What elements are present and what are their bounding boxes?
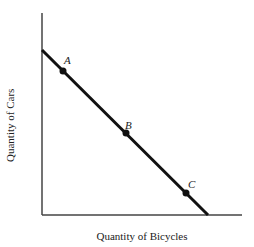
point-b-label: B [125, 119, 132, 131]
y-axis-label: Quantity of Cars [4, 89, 16, 162]
point-c-label: C [188, 178, 195, 190]
point-a-label: A [64, 54, 71, 66]
point-c-marker [183, 190, 190, 197]
x-axis-label: Quantity of Bicycles [0, 230, 254, 242]
point-a-marker [60, 68, 67, 75]
